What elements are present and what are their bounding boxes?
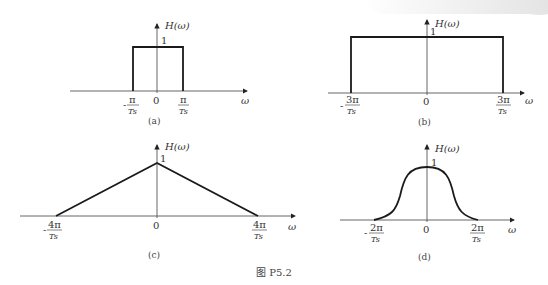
svg-text:4π: 4π	[48, 219, 61, 230]
svg-text:Ts: Ts	[179, 107, 188, 116]
svg-text:1: 1	[160, 153, 166, 164]
svg-text:Ts: Ts	[49, 232, 58, 241]
panel-c: H(ω) 1 0 ω - 4π Ts 4π Ts (c)	[20, 141, 296, 260]
panel-b: H(ω) 1 0 ω - 3π Ts 3π Ts (b)	[328, 18, 533, 127]
svg-text:Ts: Ts	[254, 232, 263, 241]
svg-text:3π: 3π	[346, 94, 359, 105]
svg-text:(b): (b)	[418, 117, 431, 127]
svg-text:H(ω): H(ω)	[164, 141, 190, 152]
svg-text:H(ω): H(ω)	[434, 18, 460, 29]
x-label: ω	[241, 95, 249, 106]
svg-text:Ts: Ts	[347, 107, 356, 116]
svg-text:-: -	[340, 100, 343, 111]
svg-text:-: -	[43, 224, 46, 235]
svg-text:1: 1	[431, 157, 437, 168]
response-curve	[374, 167, 478, 220]
svg-text:H(ω): H(ω)	[434, 143, 460, 154]
panel-a: H(ω) 1 0 ω - π Ts π Ts (a)	[70, 20, 249, 126]
svg-text:1: 1	[430, 26, 436, 37]
origin-label: 0	[153, 95, 159, 106]
svg-text:(d): (d)	[418, 252, 431, 262]
svg-text:Ts: Ts	[128, 107, 137, 116]
svg-text:0: 0	[423, 96, 429, 107]
svg-text:Ts: Ts	[498, 107, 507, 116]
svg-text:Ts: Ts	[371, 235, 380, 244]
svg-text:ω: ω	[508, 224, 516, 235]
peak-label: 1	[161, 35, 167, 46]
response-curve	[133, 47, 183, 91]
svg-text:0: 0	[423, 224, 429, 235]
panel-d: H(ω) 1 0 ω - 2π Ts 2π Ts (d)	[340, 143, 516, 262]
svg-text:ω: ω	[288, 221, 296, 232]
svg-text:4π: 4π	[253, 219, 266, 230]
svg-text:2π: 2π	[471, 222, 484, 233]
svg-text:-: -	[123, 99, 126, 110]
svg-text:Ts: Ts	[472, 235, 481, 244]
svg-text:π: π	[180, 94, 187, 105]
scan-artifact	[360, 0, 548, 15]
svg-text:2π: 2π	[370, 222, 383, 233]
svg-text:(c): (c)	[148, 250, 160, 260]
figure-canvas: H(ω) 1 0 ω - π Ts π Ts (a) H(ω) 1 0 ω - …	[0, 0, 548, 285]
figure-caption: 图 P5.2	[256, 267, 292, 278]
svg-text:π: π	[129, 94, 136, 105]
caption-a: (a)	[148, 116, 160, 126]
y-label: H(ω)	[164, 20, 190, 31]
svg-text:3π: 3π	[497, 94, 510, 105]
svg-text:ω: ω	[525, 95, 533, 106]
svg-text:-: -	[364, 227, 367, 238]
svg-text:0: 0	[153, 220, 159, 231]
